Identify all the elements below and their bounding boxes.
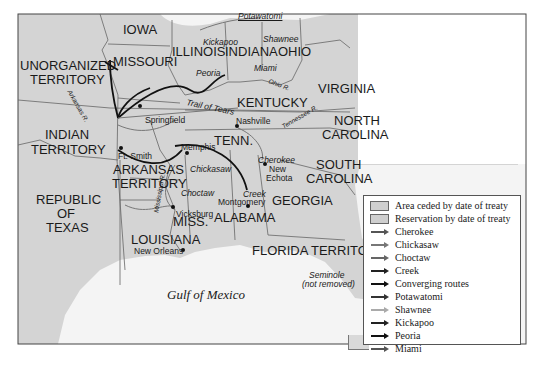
city-nashville: Nashville <box>236 117 271 126</box>
state-label-iowa: IOWA <box>123 23 157 36</box>
area-ceded-swatch-icon <box>370 201 389 211</box>
state-label-south-carolina-2: CAROLINA <box>306 172 372 185</box>
arrow-icon <box>370 266 389 276</box>
tribe-choctaw: Choctaw <box>181 189 214 198</box>
territory-label-indian: INDIAN <box>45 128 89 141</box>
legend-label: Shawnee <box>395 304 431 315</box>
state-label-georgia: GEORGIA <box>272 194 333 207</box>
legend-item-creek: Creek <box>370 264 514 277</box>
arrow-icon <box>370 279 389 289</box>
tribe-shawnee: Shawnee <box>263 35 298 44</box>
legend-item-kickapoo: Kickapoo <box>370 316 514 329</box>
legend-item-reservation: Reservation by date of treaty <box>370 212 514 225</box>
state-label-kentucky: KENTUCKY <box>237 96 308 109</box>
arrow-icon <box>370 292 389 302</box>
legend-label: Area ceded by date of treaty <box>395 200 508 211</box>
territory-label-arkansas: ARKANSAS <box>113 163 184 176</box>
legend-label: Creek <box>395 265 419 276</box>
arrow-icon <box>370 240 389 250</box>
state-label-alabama: ALABAMA <box>214 211 275 224</box>
legend-label: Reservation by date of treaty <box>395 213 511 224</box>
arrow-icon <box>370 318 389 328</box>
legend-label: Converging routes <box>395 278 469 289</box>
legend-item-choctaw: Choctaw <box>370 251 514 264</box>
arrow-icon <box>370 331 389 341</box>
legend-label: Cherokee <box>395 226 433 237</box>
state-label-north-carolina: NORTH <box>334 114 380 127</box>
gulf-of-mexico-label: Gulf of Mexico <box>167 288 245 301</box>
reservation-swatch-icon <box>370 214 389 224</box>
legend-item-converging: Converging routes <box>370 277 514 290</box>
tribe-potawatomi: Potawatomi <box>238 12 282 21</box>
legend-item-miami: Miami <box>370 342 514 355</box>
state-label-ohio: OHIO <box>278 45 311 58</box>
territory-label-unorganized: UNORGANIZED <box>20 59 116 72</box>
legend-label: Miami <box>395 343 422 354</box>
city-memphis: Memphis <box>181 143 215 152</box>
legend-item-peoria: Peoria <box>370 329 514 342</box>
arrow-icon <box>370 344 389 354</box>
state-label-north-carolina-2: CAROLINA <box>322 128 388 141</box>
state-label-missouri: MISSOURI <box>113 55 177 68</box>
tribe-miami: Miami <box>254 64 277 73</box>
state-label-virginia: VIRGINIA <box>318 82 375 95</box>
city-montgomery: Montgomery <box>218 198 265 207</box>
city-springfield: Springfield <box>145 116 185 125</box>
arrow-icon <box>370 305 389 315</box>
territory-label-arkansas-2: TERRITORY <box>112 177 187 190</box>
tribe-kickapoo: Kickapoo <box>203 38 238 47</box>
city-new-orleans: New Orleans <box>134 247 183 256</box>
legend-item-cherokee: Cherokee <box>370 225 514 238</box>
label-texas: TEXAS <box>46 221 89 234</box>
city-new-echota-2: Echota <box>266 174 292 183</box>
legend-item-area-ceded: Area ceded by date of treaty <box>370 199 514 212</box>
arrow-icon <box>370 253 389 263</box>
legend-item-potawatomi: Potawatomi <box>370 290 514 303</box>
territory-label-indian-2: TERRITORY <box>31 143 106 156</box>
state-label-louisiana: LOUISIANA <box>131 233 200 246</box>
legend-item-chickasaw: Chickasaw <box>370 238 514 251</box>
legend-label: Chickasaw <box>395 239 439 250</box>
state-label-south-carolina: SOUTH <box>316 158 362 171</box>
tribe-chickasaw: Chickasaw <box>190 165 231 174</box>
state-label-tenn: TENN. <box>214 134 253 147</box>
tribe-cherokee: Cherokee <box>258 156 295 165</box>
tribe-seminole-note: (not removed) <box>302 280 355 289</box>
tribe-peoria: Peoria <box>196 69 221 78</box>
label-republic: REPUBLIC <box>36 193 101 206</box>
tribe-creek: Creek <box>243 190 266 199</box>
legend-item-shawnee: Shawnee <box>370 303 514 316</box>
legend-label: Peoria <box>395 330 421 341</box>
label-of: OF <box>57 207 75 220</box>
city-vicksburg: Vicksburg <box>176 210 213 219</box>
legend-label: Potawatomi <box>395 291 443 302</box>
city-ft-smith: Ft. Smith <box>118 152 152 161</box>
territory-label-unorganized-2: TERRITORY <box>30 73 105 86</box>
legend-label: Kickapoo <box>395 317 434 328</box>
legend: Area ceded by date of treaty Reservation… <box>363 195 521 345</box>
legend-label: Choctaw <box>395 252 431 263</box>
arrow-icon <box>370 227 389 237</box>
